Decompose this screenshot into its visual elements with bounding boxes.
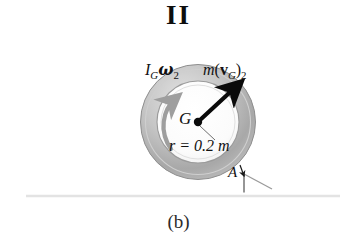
omega-subscript: 2 [173,69,178,81]
center-of-mass-dot [194,118,202,126]
linear-momentum-label: m(vG)2 [203,62,247,81]
mass-symbol: m [203,61,215,78]
omega-glyph: ω [158,60,173,79]
velocity-subscript: G [228,69,236,81]
angular-momentum-label: IGω2 [145,62,179,81]
figure-container: II [0,0,357,234]
center-of-mass-label: G [179,110,191,127]
angular-momentum-symbol-subscript: G [150,69,158,81]
linear-momentum-subscript: 2 [241,69,246,81]
contact-point-label: A [228,165,237,180]
contact-point-leader [240,165,244,176]
velocity-vector-symbol: v [220,61,228,78]
step-chamfer [244,174,272,189]
figure-caption: (b) [0,212,357,231]
radius-label: r = 0.2 m [169,138,230,154]
